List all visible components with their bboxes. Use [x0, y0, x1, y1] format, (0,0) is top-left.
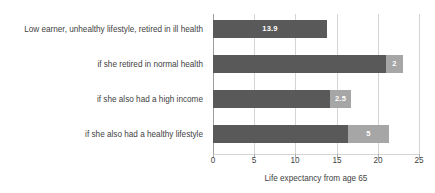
bar-segment-increment[interactable]: 2 [386, 55, 403, 73]
bar-value-label: 2.5 [335, 95, 346, 103]
category-label-3: if she also had a healthy lifestyle [85, 130, 203, 140]
bar-segment-base[interactable]: 13.9 [213, 20, 327, 38]
x-tick-label-5: 25 [414, 156, 423, 165]
category-label-1: if she retired in normal health [97, 60, 203, 70]
x-tick-label-1: 5 [252, 156, 257, 165]
bar-segment-base[interactable] [213, 90, 330, 108]
x-axis-line [213, 154, 419, 155]
bar-segment-increment[interactable]: 2.5 [330, 90, 351, 108]
x-tick-label-4: 20 [373, 156, 382, 165]
x-axis-title: Life expectancy from age 65 [213, 174, 419, 183]
gridline-25 [419, 14, 420, 154]
x-tick-label-2: 10 [290, 156, 299, 165]
bar-segment-base[interactable] [213, 55, 386, 73]
bar-segment-increment[interactable]: 5 [348, 125, 389, 143]
category-label-2: if she also had a high income [97, 95, 203, 105]
plot-area: 13.9 2 2.5 5 [213, 14, 419, 154]
x-tick-label-0: 0 [211, 156, 216, 165]
bar-value-label: 2 [392, 60, 396, 68]
bar-segment-base[interactable] [213, 125, 348, 143]
x-axis-tick-labels: 0 5 10 15 20 25 [213, 156, 419, 168]
category-label-0: Low earner, unhealthy lifestyle, retired… [24, 25, 203, 35]
bar-value-label: 13.9 [262, 25, 278, 33]
category-axis: Low earner, unhealthy lifestyle, retired… [0, 14, 208, 154]
x-tick-label-3: 15 [332, 156, 341, 165]
bar-chart: Low earner, unhealthy lifestyle, retired… [0, 0, 435, 193]
bar-value-label: 5 [366, 130, 370, 138]
